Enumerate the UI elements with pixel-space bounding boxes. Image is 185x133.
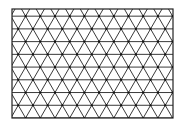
lattice-vertex — [17, 2, 19, 4]
lattice-vertex — [105, 104, 107, 106]
lattice-vertex — [83, 41, 85, 43]
lattice-line — [140, 0, 185, 133]
lattice-vertex — [157, 15, 159, 17]
lattice-vertex — [2, 130, 4, 132]
lattice-vertex — [76, 130, 78, 132]
lattice-line — [111, 0, 185, 133]
lattice-vertex — [76, 79, 78, 81]
lattice-vertex — [157, 91, 159, 93]
lattice-vertex — [142, 66, 144, 68]
lattice-vertex — [164, 28, 166, 30]
lattice-vertex — [157, 66, 159, 68]
lattice-vertex — [120, 130, 122, 132]
lattice-line — [0, 0, 58, 133]
lattice-vertex — [164, 104, 166, 106]
lattice-line — [0, 0, 29, 133]
lattice-vertex — [39, 91, 41, 93]
lattice-vertex — [105, 53, 107, 55]
lattice-vertex — [17, 104, 19, 106]
lattice-vertex — [25, 15, 27, 17]
lattice-vertex — [25, 91, 27, 93]
lattice-vertex — [61, 2, 63, 4]
lattice-vertex — [17, 28, 19, 30]
lattice-vertex — [25, 41, 27, 43]
lattice-line — [0, 0, 29, 133]
lattice-vertex — [17, 53, 19, 55]
lattice-vertex — [142, 15, 144, 17]
lattice-vertex — [39, 15, 41, 17]
lattice-vertex — [98, 91, 100, 93]
lattice-vertex — [76, 28, 78, 30]
lattice-vertex — [91, 104, 93, 106]
lattice-vertex — [91, 79, 93, 81]
lattice-vertex — [32, 104, 34, 106]
lattice-vertex — [91, 2, 93, 4]
lattice-vertex — [17, 79, 19, 81]
lattice-vertex — [157, 41, 159, 43]
lattice-vertex — [91, 130, 93, 132]
lattice-vertex — [127, 91, 129, 93]
lattice-line — [0, 0, 73, 133]
lattice-vertex — [54, 41, 56, 43]
triangular-lattice-diagram — [0, 0, 185, 133]
lattice-vertex — [105, 28, 107, 30]
lattice-vertex — [98, 41, 100, 43]
lattice-vertex — [61, 104, 63, 106]
lattice-line — [0, 0, 146, 133]
lattice-vertex — [2, 2, 4, 4]
lattice-vertex — [32, 130, 34, 132]
lattice-vertex — [113, 91, 115, 93]
lattice-vertex — [113, 41, 115, 43]
lattice-vertex — [179, 28, 181, 30]
lattice-vertex — [120, 79, 122, 81]
lattice-vertex — [149, 28, 151, 30]
lattice-line — [140, 0, 185, 133]
lattice-vertex — [2, 53, 4, 55]
lattice-vertex — [32, 28, 34, 30]
lattice-vertex — [135, 2, 137, 4]
lattice-vertex — [2, 104, 4, 106]
lattice-vertex — [105, 2, 107, 4]
lattice-vertex — [135, 130, 137, 132]
lattice-vertex — [135, 79, 137, 81]
lattice-vertex — [54, 91, 56, 93]
lattice-vertex — [83, 66, 85, 68]
lattice-vertex — [120, 53, 122, 55]
lattice-vertex — [69, 91, 71, 93]
lattice-line — [0, 0, 161, 133]
lattice-vertex — [47, 79, 49, 81]
lattice-vertex — [127, 66, 129, 68]
lattice-vertex — [149, 2, 151, 4]
lattice-vertex — [76, 104, 78, 106]
lattice-vertex — [69, 15, 71, 17]
lattice-vertex — [164, 2, 166, 4]
lattice-vertex — [113, 15, 115, 17]
lattice-vertex — [2, 28, 4, 30]
lattice-vertex — [105, 130, 107, 132]
lattice-vertex — [149, 130, 151, 132]
lattice-line — [0, 0, 58, 133]
lattice-vertex — [2, 79, 4, 81]
lattice-vertex — [127, 15, 129, 17]
lattice-vertex — [120, 28, 122, 30]
lattice-vertex — [32, 2, 34, 4]
lattice-vertex — [98, 66, 100, 68]
lattice-line — [0, 0, 73, 133]
lattice-vertex — [32, 53, 34, 55]
lattice-vertex — [120, 104, 122, 106]
lattice-line — [0, 0, 161, 133]
lattice-vertex — [164, 130, 166, 132]
lattice-vertex — [61, 53, 63, 55]
lattice-vertex — [47, 130, 49, 132]
lattice-vertex — [47, 28, 49, 30]
lattice-vertex — [54, 15, 56, 17]
lattice-vertex — [179, 79, 181, 81]
lattice-vertex — [149, 53, 151, 55]
lattice-line — [0, 0, 43, 133]
lattice-vertex — [39, 66, 41, 68]
lattice-vertex — [17, 130, 19, 132]
lattice-vertex — [83, 91, 85, 93]
lattice-vertex — [149, 104, 151, 106]
lattice-vertex — [105, 79, 107, 81]
lattice-vertex — [135, 28, 137, 30]
